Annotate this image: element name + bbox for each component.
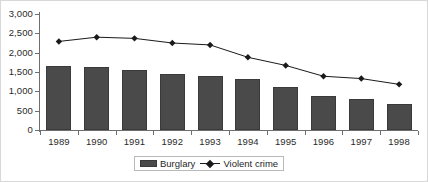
y-axis-tick-label: 1,500 [0,67,33,77]
x-axis-tick [78,131,79,135]
bar [311,96,336,130]
x-axis-tick-label: 1996 [305,137,343,147]
bar [122,70,147,130]
x-axis-tick [153,131,154,135]
bar [273,87,298,130]
x-axis-tick-label: 1990 [78,137,116,147]
y-axis-tick-label: 1,000 [0,86,33,96]
legend-item-burglary: Burglary [140,159,195,169]
x-axis-tick-label: 1993 [191,137,229,147]
line-marker-diamond [358,75,364,81]
y-axis-tick-label: 2,000 [0,48,33,58]
x-axis-tick-label: 1998 [380,137,418,147]
line-marker-diamond [56,38,62,44]
y-axis-tick-label: 2,500 [0,28,33,38]
bar [198,76,223,130]
x-axis-tick [116,131,117,135]
x-axis-tick [305,131,306,135]
legend-label-violent-crime: Violent crime [223,159,278,169]
x-axis-tick-label: 1997 [342,137,380,147]
x-axis-tick-label: 1989 [40,137,78,147]
bar [235,79,260,130]
legend-label-burglary: Burglary [160,159,195,169]
line-marker-diamond [283,62,289,68]
y-axis-tick-label: 0 [0,125,33,135]
line-marker-diamond [245,54,251,60]
y-axis-line [39,12,40,132]
line-path [59,37,399,84]
crime-statistics-chart: 05001,0001,5002,0002,5003,000 1989199019… [0,0,428,182]
x-axis-tick [267,131,268,135]
x-axis-tick-label: 1992 [153,137,191,147]
line-marker-diamond [320,73,326,79]
x-axis-tick [380,131,381,135]
x-axis-tick [40,131,41,135]
line-marker-diamond [131,35,137,41]
y-axis-labels: 05001,0001,5002,0002,5003,000 [0,0,33,182]
bar [46,66,71,130]
x-axis-tick-label: 1994 [229,137,267,147]
bar-swatch-icon [140,160,157,167]
line-marker-diamond [207,42,213,48]
bar [349,99,374,130]
x-axis-tick-label: 1995 [267,137,305,147]
x-axis-tick [342,131,343,135]
x-axis-tick [229,131,230,135]
x-axis-tick-label: 1991 [116,137,154,147]
x-axis-tick [418,131,419,135]
line-marker-diamond [396,81,402,87]
y-axis-tick-label: 500 [0,106,33,116]
x-axis-tick [191,131,192,135]
line-marker-diamond [169,40,175,46]
chart-legend: Burglary Violent crime [134,156,284,171]
line-diamond-icon [200,159,220,168]
bar [387,104,412,130]
line-marker-diamond [94,34,100,40]
bar [160,74,185,130]
bar [84,67,109,130]
y-axis-tick-label: 3,000 [0,9,33,19]
legend-item-violent-crime: Violent crime [200,159,278,169]
